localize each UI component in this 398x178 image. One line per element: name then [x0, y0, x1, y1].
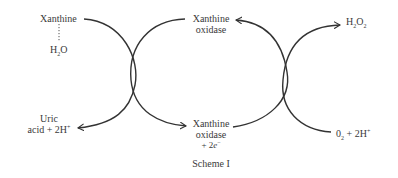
oxidase-top-line2: oxidase — [186, 24, 236, 35]
uric-acid-line1: Uric — [18, 113, 80, 124]
oxidase-bottom-line1: Xanthine — [186, 118, 236, 129]
uric-acid-text: acid + 2H — [28, 124, 68, 135]
oxygen-proton-label: 02 + 2H+ — [336, 128, 370, 139]
electrons-prefix: + 2 — [201, 140, 213, 150]
xanthine-to-uric-acid-arrow — [78, 19, 136, 128]
oxidase-bottom-line3: + 2e− — [186, 140, 236, 151]
protons-charge: + — [367, 128, 370, 134]
peroxide-sub2: 2 — [363, 23, 366, 29]
water-o: O — [60, 44, 67, 55]
oxidase-oxidation-arrow — [233, 20, 288, 127]
uric-acid-line2: acid + 2H+ — [18, 124, 80, 135]
hydrogen-peroxide-label: H2O2 — [346, 16, 366, 27]
xanthine-oxidase-bottom-label: Xanthine oxidase + 2e− — [186, 118, 236, 151]
protons-text: + 2H — [344, 128, 367, 139]
xanthine-oxidase-top-label: Xanthine oxidase — [186, 13, 236, 35]
electron-charge: − — [217, 139, 220, 145]
water-label: H2O — [50, 44, 67, 55]
oxidase-top-line1: Xanthine — [186, 13, 236, 24]
oxidase-bottom-line2: oxidase — [186, 129, 236, 140]
xanthine-label: Xanthine — [40, 13, 77, 24]
oxygen-to-peroxide-arrow — [283, 25, 340, 132]
uric-acid-label: Uric acid + 2H+ — [18, 113, 80, 135]
proton-charge: + — [67, 124, 70, 130]
oxidase-regeneration-arrow — [131, 19, 186, 126]
scheme-caption: Scheme I — [186, 158, 236, 169]
